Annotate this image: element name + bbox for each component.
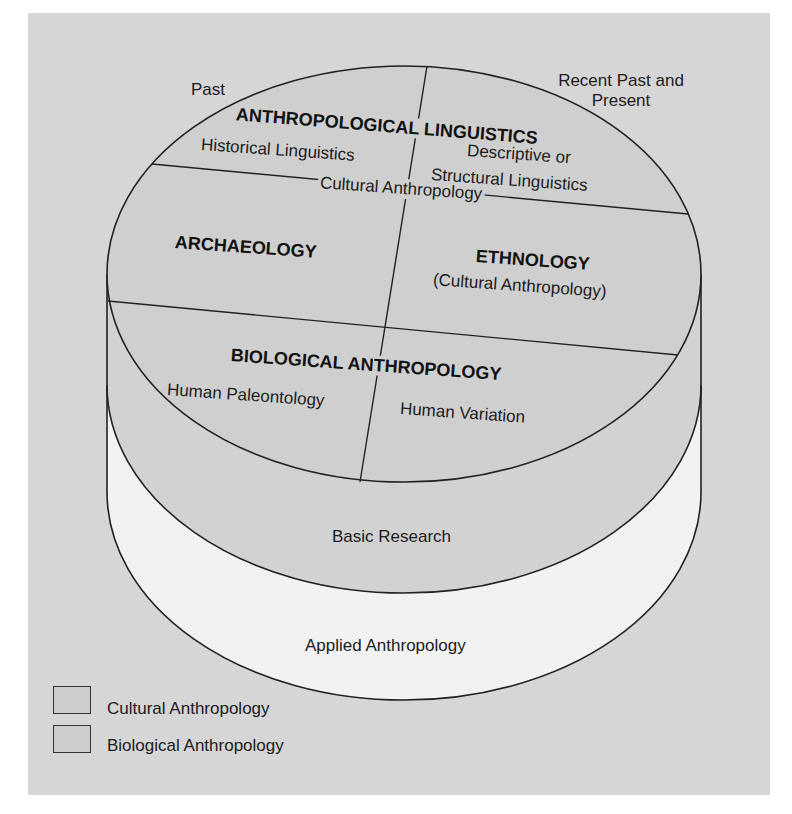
legend-label-cultural: Cultural Anthropology [107, 699, 270, 719]
label-recent-past-line2: Present [536, 91, 706, 111]
label-applied-anthropology: Applied Anthropology [305, 636, 466, 656]
legend-swatch-biological [53, 725, 91, 753]
legend-label-biological: Biological Anthropology [107, 736, 284, 756]
legend-swatch-cultural [53, 686, 91, 714]
label-basic-research: Basic Research [332, 527, 451, 547]
label-past: Past [191, 80, 225, 100]
label-recent-past-present: Recent Past and Present [536, 71, 706, 111]
label-recent-past-line1: Recent Past and [536, 71, 706, 91]
